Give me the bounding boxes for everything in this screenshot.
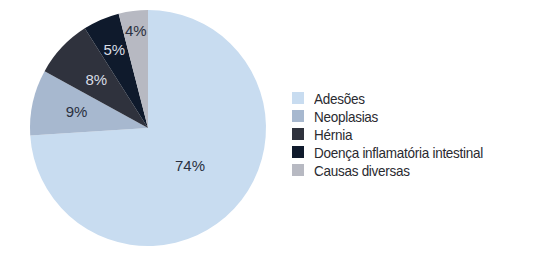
slice-value-label: 74% <box>175 157 205 174</box>
slice-value-label: 8% <box>86 71 108 88</box>
legend-item-causas-diversas: Causas diversas <box>292 161 502 179</box>
pie-chart: 74%9%8%5%4% <box>0 0 300 254</box>
legend-item-neoplasias: Neoplasias <box>292 107 502 125</box>
legend-swatch <box>292 164 304 176</box>
legend-label: Hérnia <box>314 126 352 143</box>
legend-swatch <box>292 92 304 104</box>
legend-item-doenca-inflamatoria: Doença inflamatória intestinal <box>292 143 502 161</box>
slice-value-label: 9% <box>66 103 88 120</box>
legend-label: Adesões <box>314 90 365 107</box>
legend-label: Causas diversas <box>314 162 410 179</box>
slice-value-label: 4% <box>125 22 147 39</box>
legend-swatch <box>292 110 304 122</box>
legend-item-hernia: Hérnia <box>292 125 502 143</box>
legend: Adesões Neoplasias Hérnia Doença inflama… <box>292 89 502 179</box>
legend-label: Doença inflamatória intestinal <box>314 144 483 161</box>
legend-swatch <box>292 146 304 158</box>
pie-slices <box>30 10 266 246</box>
legend-label: Neoplasias <box>314 108 378 125</box>
slice-value-label: 5% <box>103 41 125 58</box>
legend-item-adesoes: Adesões <box>292 89 502 107</box>
legend-swatch <box>292 128 304 140</box>
